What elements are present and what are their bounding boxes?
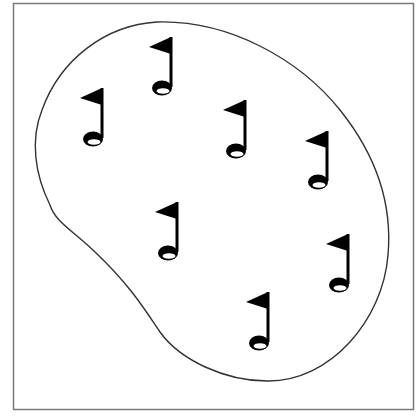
flags-group xyxy=(80,37,350,351)
hole-lip xyxy=(157,88,170,94)
hole-lip xyxy=(254,343,267,349)
hole-lip xyxy=(163,253,176,259)
golf-flag-icon xyxy=(155,202,179,261)
flag-pennant xyxy=(246,292,268,309)
golf-flag-icon xyxy=(80,88,104,147)
hole-lip xyxy=(88,139,101,145)
flag-pennant xyxy=(149,37,171,54)
flag-pennant xyxy=(326,234,348,251)
hole-lip xyxy=(334,285,347,291)
flag-pennant xyxy=(223,100,245,117)
golf-flag-icon xyxy=(326,234,350,293)
flag-pennant xyxy=(305,131,327,148)
hole-lip xyxy=(231,151,244,157)
flag-pennant xyxy=(80,88,102,105)
flag-pennant xyxy=(155,202,177,219)
golf-green-diagram xyxy=(0,0,417,419)
frame-border xyxy=(14,4,414,410)
golf-flag-icon xyxy=(223,100,247,159)
green-outline xyxy=(35,22,388,381)
golf-flag-icon xyxy=(305,131,329,190)
golf-flag-icon xyxy=(246,292,270,351)
golf-flag-icon xyxy=(149,37,173,96)
hole-lip xyxy=(313,182,326,188)
